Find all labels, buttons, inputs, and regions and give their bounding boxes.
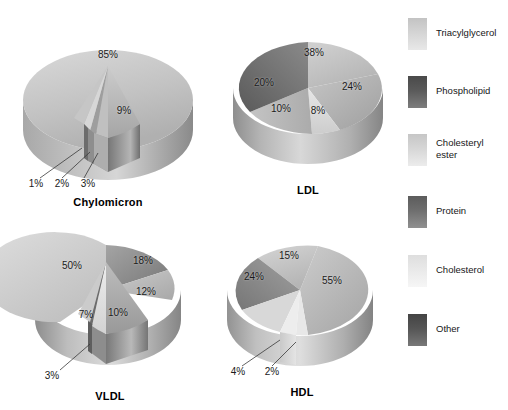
legend-item-other: Other — [408, 314, 460, 346]
hdl-title: HDL — [222, 386, 382, 398]
legend-item-phospholipid: Phospholipid — [408, 76, 490, 108]
vldl-other-side — [88, 321, 92, 354]
legend-item-triacylglycerol: Triacylglycerol — [408, 18, 496, 50]
vldl-label-phospholipid: 18% — [133, 255, 153, 266]
ldl-label-cholesterol: 8% — [311, 105, 325, 116]
vldl-label-other: 3% — [45, 370, 59, 381]
chart-vldl: 50% 18% 12% 10% 7% 3% VLDL — [30, 218, 190, 398]
legend-label-cholesterol: Cholesterol — [436, 255, 484, 276]
vldl-pie-svg — [30, 218, 190, 388]
vldl-title: VLDL — [30, 390, 190, 402]
hdl-label-triacylglycerol: 2% — [265, 366, 279, 377]
chylomicron-label-cholesterol: 1% — [29, 178, 43, 189]
hdl-label-cholesterol: 4% — [231, 366, 245, 377]
chylomicron-label-protein: 2% — [55, 178, 69, 189]
chart-ldl: 38% 24% 8% 10% 20% LDL — [228, 12, 388, 192]
ldl-pie-svg — [228, 12, 388, 187]
legend-label-cholesteryl-ester: Cholesteryl ester — [436, 134, 484, 160]
chart-hdl: 55% 15% 24% 4% 2% HDL — [222, 214, 382, 399]
chart-chylomicron: 85% 9% 1% 2% 3% Chylomicron — [18, 12, 198, 192]
hdl-thin-side-a — [280, 332, 296, 365]
legend-swatch-phospholipid — [408, 76, 427, 108]
chylomicron-title: Chylomicron — [18, 196, 198, 208]
ldl-label-cholesteryl-ester: 38% — [304, 47, 324, 58]
lipoprotein-composition-figure: 85% 9% 1% 2% 3% Chylomicron — [0, 0, 508, 410]
chylomicron-label-phospholipid: 9% — [117, 105, 131, 116]
legend-item-cholesterol: Cholesterol — [408, 255, 484, 287]
hdl-label-protein: 55% — [322, 275, 342, 286]
vldl-label-protein: 10% — [108, 307, 128, 318]
legend-swatch-cholesteryl-ester — [408, 134, 427, 166]
hdl-label-phospholipid: 24% — [244, 271, 264, 282]
legend-swatch-triacylglycerol — [408, 18, 427, 50]
legend-swatch-cholesterol — [408, 255, 427, 287]
chylomicron-pie-svg — [18, 12, 198, 192]
ldl-label-triacylglycerol: 10% — [271, 103, 291, 114]
ldl-label-phospholipid: 20% — [254, 77, 274, 88]
chylomicron-label-cholesteryl-ester: 3% — [81, 178, 95, 189]
legend-label-other: Other — [436, 314, 460, 335]
ldl-title: LDL — [228, 184, 388, 196]
vldl-label-cholesterol: 7% — [79, 309, 93, 320]
hdl-label-cholesteryl-ester: 15% — [279, 250, 299, 261]
ldl-label-protein: 24% — [342, 81, 362, 92]
legend-label-triacylglycerol: Triacylglycerol — [436, 18, 496, 39]
legend-swatch-other — [408, 314, 427, 346]
chylomicron-label-triacylglycerol: 85% — [98, 49, 118, 60]
chylomicron-thin-side-b — [88, 128, 94, 164]
legend-item-cholesteryl-ester: Cholesteryl ester — [408, 134, 484, 166]
legend-item-protein: Protein — [408, 196, 466, 228]
hdl-pie-svg — [222, 214, 382, 389]
vldl-label-cholesteryl-ester: 12% — [136, 286, 156, 297]
legend-label-phospholipid: Phospholipid — [436, 76, 490, 97]
vldl-label-triacylglycerol: 50% — [62, 260, 82, 271]
legend-swatch-protein — [408, 196, 427, 228]
legend-label-protein: Protein — [436, 196, 466, 217]
